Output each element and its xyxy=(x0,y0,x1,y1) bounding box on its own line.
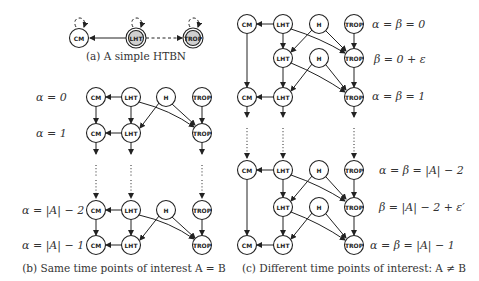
svg-text:LHT: LHT xyxy=(125,242,139,249)
node-c-cm-n2: CM xyxy=(238,161,257,180)
svg-text:CM: CM xyxy=(242,21,252,28)
node-c-lht-1: LHT xyxy=(274,88,293,107)
svg-text:TROP: TROP xyxy=(345,204,364,211)
node-c-trop-1: TROP xyxy=(345,88,364,107)
node-trop: TROP xyxy=(183,28,203,48)
node-b-trop-n1: TROP xyxy=(193,236,212,255)
svg-text:TROP: TROP xyxy=(345,94,364,101)
row-label-c-0: α = β = 0 xyxy=(372,18,425,31)
node-b-lht-0: LHT xyxy=(122,88,141,107)
row-label-c-4: β = |A| − 2 + ε′ xyxy=(378,201,465,215)
svg-text:CM: CM xyxy=(91,207,101,214)
node-b-h-n2: H xyxy=(157,201,176,220)
svg-text:TROP: TROP xyxy=(193,130,212,137)
node-b-trop-1: TROP xyxy=(193,124,212,143)
svg-text:H: H xyxy=(316,167,321,174)
node-b-cm-n2: CM xyxy=(87,201,106,220)
svg-text:TROP: TROP xyxy=(345,55,364,62)
node-c-trop-n1: TROP xyxy=(345,236,364,255)
panel-b: α = 0 α = 1 α = |A| − 2 α = |A| − 1 xyxy=(22,88,226,275)
caption-b: (b) Same time points of interest A = B xyxy=(22,262,226,274)
node-b-lht-n1: LHT xyxy=(122,236,141,255)
svg-text:H: H xyxy=(316,21,321,28)
svg-text:LHT: LHT xyxy=(277,55,291,62)
row-label-b-1: α = 1 xyxy=(36,127,67,140)
row-label-c-2: α = β = 1 xyxy=(372,90,425,103)
svg-text:CM: CM xyxy=(242,242,252,249)
svg-text:LHT: LHT xyxy=(125,94,139,101)
node-c-trop-0: TROP xyxy=(345,15,364,34)
row-label-b-0: α = 0 xyxy=(36,91,67,104)
node-c-h-eps: H xyxy=(310,49,329,68)
svg-text:LHT: LHT xyxy=(277,204,291,211)
self-loop-trop xyxy=(189,18,199,27)
row-label-c-5: α = β = |A| − 1 xyxy=(370,239,455,253)
htbn-diagram: CM LHT TROP (a) A simple HTBN α = 0 α = … xyxy=(0,0,479,281)
node-cm: CM xyxy=(70,29,89,48)
node-c-h-0: H xyxy=(310,15,329,34)
svg-text:LHT: LHT xyxy=(277,94,291,101)
panel-a: CM LHT TROP (a) A simple HTBN xyxy=(70,18,204,62)
node-c-lht-n1: LHT xyxy=(274,236,293,255)
self-loop-lht xyxy=(132,18,142,27)
svg-text:TROP: TROP xyxy=(193,94,212,101)
svg-text:TROP: TROP xyxy=(193,207,212,214)
node-c-cm-n1: CM xyxy=(238,236,257,255)
svg-text:CM: CM xyxy=(91,242,101,249)
node-c-lht-eps: LHT xyxy=(274,49,293,68)
svg-text:TROP: TROP xyxy=(345,21,364,28)
node-c-h-n2eps: H xyxy=(310,198,329,217)
svg-text:TROP: TROP xyxy=(184,35,203,42)
node-b-lht-1: LHT xyxy=(122,124,141,143)
row-label-c-1: β = 0 + ε xyxy=(373,53,426,66)
svg-text:LHT: LHT xyxy=(277,242,291,249)
svg-text:CM: CM xyxy=(74,35,84,42)
node-b-h-0: H xyxy=(157,88,176,107)
svg-text:TROP: TROP xyxy=(345,242,364,249)
svg-text:TROP: TROP xyxy=(345,167,364,174)
node-c-h-n2: H xyxy=(310,161,329,180)
node-b-cm-0: CM xyxy=(87,88,106,107)
node-c-lht-0: LHT xyxy=(274,15,293,34)
svg-text:H: H xyxy=(316,55,321,62)
node-b-trop-n2: TROP xyxy=(193,201,212,220)
svg-text:LHT: LHT xyxy=(130,35,144,42)
node-c-trop-n2: TROP xyxy=(345,161,364,180)
svg-text:H: H xyxy=(316,204,321,211)
row-label-c-3: α = β = |A| − 2 xyxy=(379,164,464,178)
node-lht: LHT xyxy=(126,28,146,48)
node-c-trop-n2eps: TROP xyxy=(345,198,364,217)
panel-c: α = β = 0 β = 0 + ε α = β = 1 α = β = |A… xyxy=(238,15,467,275)
row-label-b-3: α = |A| − 1 xyxy=(22,239,84,253)
svg-text:TROP: TROP xyxy=(193,242,212,249)
caption-c: (c) Different time points of interest: A… xyxy=(242,262,466,274)
node-c-cm-0: CM xyxy=(238,15,257,34)
node-c-cm-1: CM xyxy=(238,88,257,107)
node-b-trop-0: TROP xyxy=(193,88,212,107)
node-c-lht-n2eps: LHT xyxy=(274,198,293,217)
svg-text:H: H xyxy=(163,94,168,101)
svg-text:CM: CM xyxy=(242,167,252,174)
node-b-cm-1: CM xyxy=(87,124,106,143)
node-c-trop-eps: TROP xyxy=(345,49,364,68)
svg-text:LHT: LHT xyxy=(125,130,139,137)
svg-text:CM: CM xyxy=(91,94,101,101)
svg-text:CM: CM xyxy=(242,94,252,101)
self-loop-cm xyxy=(75,18,85,27)
svg-text:LHT: LHT xyxy=(125,207,139,214)
row-label-b-2: α = |A| − 2 xyxy=(22,204,84,218)
svg-text:H: H xyxy=(163,207,168,214)
svg-text:CM: CM xyxy=(91,130,101,137)
node-b-lht-n2: LHT xyxy=(122,201,141,220)
node-b-cm-n1: CM xyxy=(87,236,106,255)
caption-a: (a) A simple HTBN xyxy=(86,50,186,62)
svg-text:LHT: LHT xyxy=(277,167,291,174)
node-c-lht-n2: LHT xyxy=(274,161,293,180)
svg-text:LHT: LHT xyxy=(277,21,291,28)
